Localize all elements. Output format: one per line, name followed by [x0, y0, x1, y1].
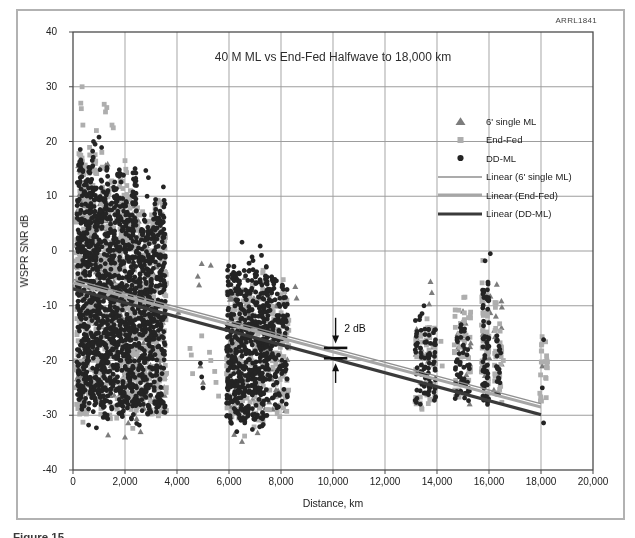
legend-circle-icon: [436, 152, 484, 164]
legend-line-swatch-icon: [436, 208, 484, 220]
legend-item: End-Fed: [436, 132, 572, 148]
figure-id-label: ARRL1841: [555, 16, 597, 25]
x-tick-label: 14,000: [407, 476, 467, 487]
legend-label: End-Fed: [486, 134, 522, 145]
legend-triangle-icon: [436, 115, 484, 127]
legend-label: Linear (6' single ML): [486, 171, 572, 182]
x-tick-label: 12,000: [355, 476, 415, 487]
legend-item: Linear (6' single ML): [436, 169, 572, 185]
scanned-figure-page: 40 M ML vs End-Fed Halfwave to 18,000 km…: [0, 0, 635, 538]
legend-item: DD-ML: [436, 150, 572, 166]
legend-label: DD-ML: [486, 153, 516, 164]
legend-line-swatch-icon: [436, 189, 484, 201]
y-tick-label: 0: [8, 245, 57, 257]
legend-item: Linear (End-Fed): [436, 187, 572, 203]
legend-label: 6' single ML: [486, 116, 536, 127]
y-tick-label: -20: [8, 355, 57, 367]
legend-label: Linear (End-Fed): [486, 190, 558, 201]
x-tick-label: 4,000: [147, 476, 207, 487]
caption-fragment: Figure 15: [13, 531, 513, 538]
legend-item: 6' single ML: [436, 113, 572, 129]
x-tick-label: 18,000: [511, 476, 571, 487]
y-tick-label: -40: [8, 464, 57, 476]
y-tick-label: 30: [8, 81, 57, 93]
y-tick-label: -10: [8, 300, 57, 312]
y-tick-label: 10: [8, 190, 57, 202]
x-tick-label: 8,000: [251, 476, 311, 487]
legend-label: Linear (DD-ML): [486, 208, 551, 219]
y-tick-label: 40: [8, 26, 57, 38]
x-tick-label: 20,000: [563, 476, 623, 487]
y-tick-label: 20: [8, 136, 57, 148]
chart-title: 40 M ML vs End-Fed Halfwave to 18,000 km: [73, 50, 593, 64]
chart-canvas: [0, 0, 635, 538]
x-axis-label: Distance, km: [73, 497, 593, 509]
x-tick-label: 16,000: [459, 476, 519, 487]
legend-line-swatch-icon: [436, 171, 484, 183]
y-tick-label: -30: [8, 409, 57, 421]
annotation-label: 2 dB: [344, 322, 366, 334]
x-tick-label: 6,000: [199, 476, 259, 487]
legend: 6' single MLEnd-FedDD-MLLinear (6' singl…: [436, 113, 572, 222]
legend-square-icon: [436, 134, 484, 146]
x-tick-label: 2,000: [95, 476, 155, 487]
x-tick-label: 10,000: [303, 476, 363, 487]
x-tick-label: 0: [43, 476, 103, 487]
legend-item: Linear (DD-ML): [436, 206, 572, 222]
